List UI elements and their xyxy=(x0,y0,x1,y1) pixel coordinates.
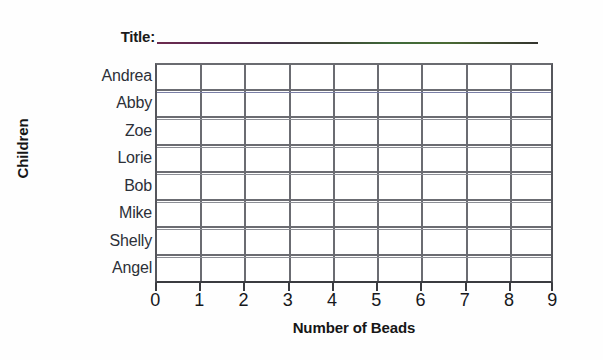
x-axis-tick-labels: 0123456789 xyxy=(0,290,603,316)
horizontal-gridline xyxy=(157,116,551,118)
x-axis-tick-label: 6 xyxy=(405,290,435,311)
category-label: Andrea xyxy=(40,67,152,85)
horizontal-gridline xyxy=(157,254,551,256)
vertical-gridline xyxy=(466,65,468,281)
title-row: Title: xyxy=(0,28,603,52)
x-axis-tick-label: 0 xyxy=(140,290,170,311)
horizontal-gridline-secondary xyxy=(157,202,551,203)
vertical-gridline xyxy=(333,65,335,281)
horizontal-gridline xyxy=(157,199,551,201)
title-prompt-label: Title: xyxy=(100,28,155,46)
horizontal-gridline-secondary xyxy=(157,147,551,148)
y-axis-title: Children xyxy=(14,99,31,199)
bar-graph-worksheet: Title: Children AndreaAbbyZoeLorieBobMik… xyxy=(0,0,603,360)
horizontal-gridline xyxy=(157,226,551,228)
x-axis-tick-label: 9 xyxy=(537,290,567,311)
x-axis-tick-label: 7 xyxy=(450,290,480,311)
category-label: Mike xyxy=(40,204,152,222)
chart-plot-area[interactable] xyxy=(155,63,553,283)
x-axis-tick-label: 8 xyxy=(494,290,524,311)
x-axis-tick-label: 5 xyxy=(361,290,391,311)
horizontal-gridline-secondary xyxy=(157,229,551,230)
horizontal-gridline-secondary xyxy=(157,257,551,258)
category-label: Lorie xyxy=(40,149,152,167)
x-axis-tick-label: 3 xyxy=(273,290,303,311)
horizontal-gridline-secondary xyxy=(157,174,551,175)
horizontal-gridline-secondary xyxy=(157,119,551,120)
vertical-gridline xyxy=(421,65,423,281)
category-label: Shelly xyxy=(40,232,152,250)
vertical-gridline xyxy=(377,65,379,281)
title-blank-write-line[interactable] xyxy=(157,42,538,44)
x-axis-tick-label: 2 xyxy=(228,290,258,311)
vertical-gridline xyxy=(200,65,202,281)
vertical-gridline xyxy=(510,65,512,281)
x-axis-title: Number of Beads xyxy=(155,319,553,336)
vertical-gridline xyxy=(244,65,246,281)
category-label-column: AndreaAbbyZoeLorieBobMikeShellyAngel xyxy=(40,63,152,283)
x-axis-tick-label: 4 xyxy=(317,290,347,311)
vertical-gridline xyxy=(289,65,291,281)
horizontal-gridline xyxy=(157,144,551,146)
horizontal-gridline-secondary xyxy=(157,92,551,93)
horizontal-gridline xyxy=(157,171,551,173)
category-label: Abby xyxy=(40,94,152,112)
category-label: Zoe xyxy=(40,122,152,140)
x-axis-tick-label: 1 xyxy=(184,290,214,311)
horizontal-gridline xyxy=(157,89,551,91)
category-label: Bob xyxy=(40,177,152,195)
category-label: Angel xyxy=(40,259,152,277)
